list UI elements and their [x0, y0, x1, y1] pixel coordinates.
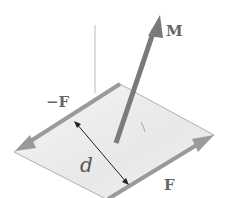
distance-label: d [80, 153, 93, 177]
negative-force-label: −F [46, 93, 70, 111]
positive-force-label: F [164, 176, 175, 194]
couple-moment-diagram: M −F F d [0, 0, 236, 198]
plane [14, 84, 214, 198]
moment-label: M [166, 22, 183, 40]
